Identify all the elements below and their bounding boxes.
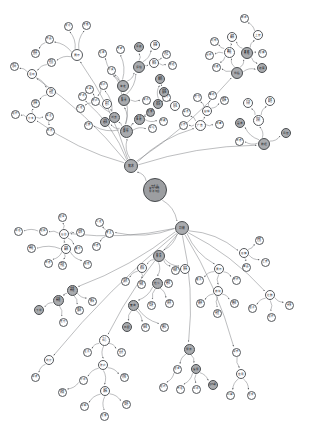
graph-node[interactable]: 供给	[231, 67, 243, 79]
graph-node[interactable]: 资讯	[142, 96, 151, 105]
graph-node[interactable]: 藏品 推荐	[230, 299, 239, 308]
graph-node[interactable]: 安全	[105, 229, 114, 238]
knowledge-graph-canvas[interactable]: 艺术品 鉴赏交易 服务平台需求功能用户 需求浏览交互 体验反馈信息 检索检索 需…	[0, 0, 310, 430]
graph-node[interactable]: 相似 推荐	[160, 323, 169, 332]
graph-node[interactable]: 真伪 鉴别	[155, 74, 165, 84]
graph-node[interactable]: 估价 服务	[149, 58, 159, 68]
graph-node[interactable]: 关注	[45, 112, 54, 121]
graph-node[interactable]: 市场 行情	[162, 50, 171, 59]
graph-node[interactable]: 用户	[99, 81, 108, 90]
graph-node[interactable]: 统计 分析	[253, 115, 264, 126]
graph-node[interactable]: 内容 审核	[61, 244, 71, 254]
graph-node[interactable]: 资讯 模块	[137, 263, 147, 273]
graph-node[interactable]: 店铺	[258, 49, 267, 58]
graph-node[interactable]: 风控	[281, 128, 291, 138]
graph-node[interactable]: 匹配	[122, 322, 132, 332]
graph-node[interactable]: 名录	[98, 49, 107, 58]
graph-node[interactable]: 工具	[85, 85, 94, 94]
graph-node[interactable]: 需求	[124, 159, 138, 173]
graph-node[interactable]: 结算	[257, 63, 267, 73]
graph-node[interactable]: 专家	[116, 45, 125, 54]
graph-node[interactable]: 报表	[31, 373, 40, 382]
graph-node[interactable]: 功能	[175, 221, 189, 235]
graph-node[interactable]: 商家 后台	[255, 236, 264, 245]
graph-node[interactable]: 文化	[64, 22, 73, 31]
graph-node[interactable]: 互动 交流	[285, 301, 294, 310]
graph-node[interactable]: 上架	[261, 258, 270, 267]
graph-node[interactable]: 鉴定	[117, 80, 129, 92]
graph-node[interactable]: 营销	[202, 106, 212, 116]
graph-node[interactable]: 认证	[95, 218, 104, 227]
graph-node[interactable]: 条件 筛选	[147, 301, 156, 310]
graph-node[interactable]: 主页	[83, 348, 92, 357]
graph-node[interactable]: 备份	[74, 245, 83, 254]
graph-node[interactable]: 商品	[242, 263, 251, 272]
graph-node[interactable]: 店铺	[239, 248, 249, 258]
graph-node[interactable]: 专题	[232, 276, 241, 285]
graph-node[interactable]: 智能 推荐	[164, 279, 173, 288]
graph-node[interactable]: 社群	[84, 121, 93, 130]
graph-node[interactable]: 画廊	[205, 51, 214, 60]
graph-node[interactable]: 交易 管理	[67, 285, 78, 296]
graph-node[interactable]: 话题	[11, 110, 20, 119]
graph-node[interactable]: 上架	[253, 30, 263, 40]
graph-node[interactable]: 浏览	[109, 112, 120, 123]
graph-node[interactable]: 售后 服务	[88, 297, 97, 306]
graph-node[interactable]: 模块	[213, 286, 223, 296]
graph-node[interactable]: 交流	[78, 92, 87, 101]
graph-node[interactable]: 收藏	[159, 117, 168, 126]
graph-node[interactable]: 配置	[58, 213, 67, 222]
graph-node[interactable]: 展示	[71, 49, 83, 61]
graph-node[interactable]: 反馈	[146, 108, 155, 117]
graph-node[interactable]: 商家 管理	[241, 47, 253, 59]
graph-node[interactable]: 展示	[214, 264, 224, 274]
graph-node[interactable]: 个人 信息	[117, 348, 126, 357]
graph-node[interactable]: 认证	[76, 104, 85, 113]
graph-node[interactable]: 消息 通知	[100, 386, 110, 396]
graph-node[interactable]: 互动 社区	[46, 87, 56, 97]
graph-node[interactable]: 个性 推荐	[100, 117, 110, 127]
graph-node[interactable]: 交互 体验	[134, 114, 145, 125]
graph-node[interactable]: 用户 需求	[120, 125, 133, 138]
graph-node[interactable]: 维护 升级	[58, 261, 67, 270]
graph-node[interactable]: 账户	[91, 97, 100, 106]
graph-node[interactable]: 下单	[79, 376, 88, 385]
graph-node[interactable]: 会员	[46, 127, 55, 136]
graph-node[interactable]: 信用	[236, 369, 246, 379]
graph-node[interactable]: 日志	[44, 259, 53, 268]
graph-node[interactable]: 报表 输出	[265, 96, 275, 106]
graph-node[interactable]: 标签 体系	[141, 323, 150, 332]
graph-node[interactable]: 信誉	[247, 391, 256, 400]
graph-node[interactable]: 圈子	[248, 304, 257, 313]
graph-node[interactable]: 在线	[159, 383, 168, 392]
graph-node[interactable]: 在线客服	[208, 380, 218, 390]
graph-node[interactable]: 支付	[59, 318, 68, 327]
graph-node[interactable]: 用户 管理	[27, 244, 36, 253]
graph-node[interactable]: 作品 展示	[196, 299, 205, 308]
graph-node[interactable]: 我的 订单	[120, 373, 129, 382]
graph-node[interactable]: 提醒	[80, 402, 89, 411]
graph-node[interactable]: 结果 排序	[165, 299, 174, 308]
graph-node[interactable]: 社群	[265, 290, 275, 300]
graph-node[interactable]: 口碑	[226, 391, 235, 400]
graph-node[interactable]: 信息 服务	[153, 250, 165, 262]
graph-node[interactable]: 价格 参考	[150, 40, 160, 50]
graph-node[interactable]: 资质 审核	[227, 32, 237, 42]
graph-node[interactable]: 传播	[82, 21, 91, 30]
graph-node[interactable]: 日志	[235, 137, 244, 146]
graph-node[interactable]: 系统 设置	[76, 228, 85, 237]
graph-node[interactable]: 权限	[39, 227, 48, 236]
graph-node[interactable]: 溯源 查询	[159, 87, 169, 97]
graph-node[interactable]: 行为 分析	[243, 98, 253, 108]
graph-node[interactable]: 首页	[195, 276, 204, 285]
graph-node[interactable]: 话题	[267, 313, 276, 322]
graph-node[interactable]: 曝光	[208, 91, 217, 100]
graph-node[interactable]: 我的 收藏	[58, 388, 67, 397]
graph-node[interactable]: 拍卖	[212, 63, 221, 72]
graph-node[interactable]: 个人 中心	[99, 335, 110, 346]
graph-node[interactable]: 工单	[192, 385, 201, 394]
graph-node[interactable]: 活动 专区	[213, 309, 222, 318]
graph-node[interactable]: 作品	[45, 35, 54, 44]
graph-node[interactable]: 精准 投放	[220, 96, 229, 105]
graph-node[interactable]: 专题 栏目	[47, 58, 56, 67]
